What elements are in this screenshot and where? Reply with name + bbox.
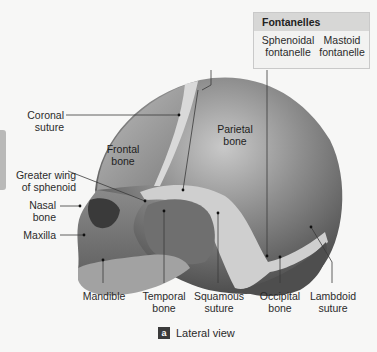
label-line: bone bbox=[98, 155, 148, 167]
label-line: Nasal bbox=[20, 199, 56, 211]
legend-sphenoidal-fontanelle: Sphenoidal fontanelle bbox=[260, 34, 316, 58]
label-line: suture bbox=[306, 302, 360, 314]
legend-title: Fontanelles bbox=[254, 13, 369, 31]
label-parietal-bone: Parietal bone bbox=[208, 123, 262, 147]
label-coronal-suture: Coronal suture bbox=[16, 109, 64, 133]
label-line: Parietal bbox=[208, 123, 262, 135]
label-line: Occipital bbox=[254, 290, 306, 302]
legend-label-line: Mastoid bbox=[314, 34, 370, 46]
label-line: bone bbox=[138, 302, 190, 314]
legend-label-line: fontanelle bbox=[260, 46, 316, 58]
label-temporal-bone: Temporal bone bbox=[138, 290, 190, 314]
label-line: Frontal bbox=[98, 143, 148, 155]
legend-label-line: fontanelle bbox=[314, 46, 370, 58]
label-line: Greater wing bbox=[8, 169, 76, 181]
label-line: bone bbox=[254, 302, 306, 314]
fetal-skull-diagram: Fontanelles Sphenoidal fontanelle Mastoi… bbox=[0, 0, 377, 352]
label-line: suture bbox=[16, 121, 64, 133]
label-nasal-bone: Nasal bone bbox=[20, 199, 56, 223]
label-squamous-suture: Squamous suture bbox=[192, 290, 246, 314]
label-line: of sphenoid bbox=[8, 181, 76, 193]
label-line: Temporal bbox=[138, 290, 190, 302]
label-maxilla: Maxilla bbox=[14, 229, 56, 241]
fontanelles-legend: Fontanelles Sphenoidal fontanelle Mastoi… bbox=[253, 12, 370, 69]
panel-badge: a bbox=[158, 327, 170, 339]
label-line: Mandible bbox=[78, 290, 130, 302]
label-line: bone bbox=[20, 211, 56, 223]
label-mandible: Mandible bbox=[78, 290, 130, 302]
label-line: Lambdoid bbox=[306, 290, 360, 302]
legend-label-line: Sphenoidal bbox=[260, 34, 316, 46]
label-lambdoid-suture: Lambdoid suture bbox=[306, 290, 360, 314]
label-occipital-bone: Occipital bone bbox=[254, 290, 306, 314]
legend-mastoid-fontanelle: Mastoid fontanelle bbox=[314, 34, 370, 58]
caption-text: Lateral view bbox=[176, 327, 235, 339]
label-line: Maxilla bbox=[14, 229, 56, 241]
label-greater-wing-of-sphenoid: Greater wing of sphenoid bbox=[8, 169, 76, 193]
label-line: Coronal bbox=[16, 109, 64, 121]
figure-caption: aLateral view bbox=[158, 326, 235, 340]
label-line: bone bbox=[208, 135, 262, 147]
label-line: Squamous bbox=[192, 290, 246, 302]
label-frontal-bone: Frontal bone bbox=[98, 143, 148, 167]
label-line: suture bbox=[192, 302, 246, 314]
